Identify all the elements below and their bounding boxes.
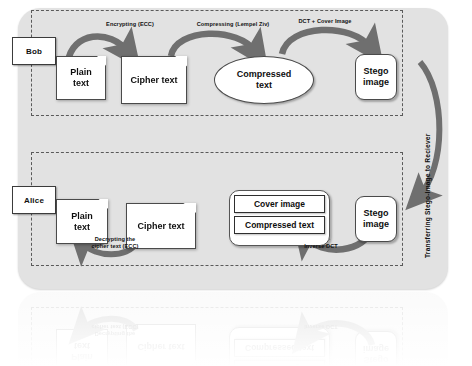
node-plain-text-2-line2: text (74, 222, 90, 233)
node-compressed-text: Compressed text (214, 56, 314, 104)
node-plain-text-2-line1: Plain (71, 211, 93, 222)
reflection-fade (18, 292, 448, 366)
label-decrypting: Decrypting the cipher text (ECC) (82, 236, 148, 250)
node-plain-text: Plain text (56, 56, 106, 100)
party-tag-bob: Bob (12, 37, 56, 65)
node-compressed-text-2: Compressed text (234, 216, 325, 234)
node-stego-image-2: Stego image (355, 196, 397, 242)
node-plain-text-line1: Plain (70, 67, 92, 78)
node-extracted-contents: Cover image Compressed text (229, 190, 330, 246)
node-compressed-text-line2: text (256, 80, 272, 91)
label-dct-cover-image: DCT + Cover Image (283, 18, 367, 25)
label-compressing: Compressing (Lempel Ziv) (186, 21, 280, 28)
node-cipher-text-2-label: Cipher text (137, 221, 184, 232)
node-cipher-text-label: Cipher text (130, 75, 177, 86)
label-encrypting: Encrypting (ECC) (92, 21, 168, 28)
party-tag-bob-label: Bob (26, 47, 42, 56)
label-decrypting-line1: Decrypting the (95, 236, 136, 242)
panel-reflection: Plaintext Cipher text Cover image Compre… (18, 292, 448, 366)
label-transfer-stego-image: Transferring Stego-Image to Reciever (424, 134, 431, 258)
node-stego-image-line2: image (363, 77, 389, 88)
label-inverse-dct: Inverse DCT (295, 243, 347, 250)
party-tag-alice-label: Alice (24, 196, 44, 205)
node-stego-image: Stego image (355, 54, 397, 100)
node-compressed-text-line1: Compressed (237, 69, 292, 80)
node-plain-text-line2: text (73, 78, 89, 89)
party-tag-alice: Alice (12, 186, 56, 214)
node-cover-image: Cover image (234, 195, 325, 213)
label-decrypting-line2: cipher text (ECC) (91, 243, 138, 249)
node-stego-image-2-line1: Stego (363, 208, 388, 219)
node-stego-image-2-line2: image (363, 219, 389, 230)
node-cipher-text: Cipher text (121, 56, 187, 104)
diagram-canvas: Bob Alice Plain text Cipher tex (0, 0, 472, 366)
node-stego-image-line1: Stego (363, 66, 388, 77)
